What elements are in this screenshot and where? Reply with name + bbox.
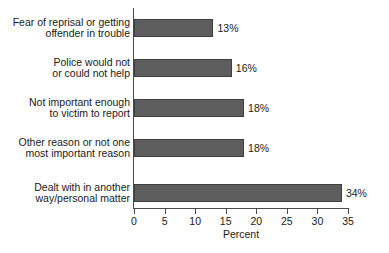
bar: [134, 99, 244, 117]
x-axis-title: Percent: [133, 228, 349, 240]
category-label: Other reason or not one most important r…: [0, 137, 130, 160]
bar: [134, 59, 232, 77]
x-axis-tick: [195, 209, 196, 214]
bar-chart: Fear of reprisal or getting offender in …: [0, 0, 389, 253]
category-label-line: most important reason: [0, 148, 130, 160]
bar-value-label: 34%: [346, 184, 367, 202]
category-label: Fear of reprisal or getting offender in …: [0, 17, 130, 40]
x-axis-tick: [348, 209, 349, 214]
category-label: Dealt with in another way/personal matte…: [0, 182, 130, 205]
x-axis-tick: [317, 209, 318, 214]
bar: [134, 19, 213, 37]
bar-value-label: 16%: [236, 59, 257, 77]
category-label-line: to victim to report: [0, 108, 130, 120]
x-axis-tick: [165, 209, 166, 214]
bar-value-label: 13%: [217, 19, 238, 37]
cut-off-source-line: [0, 246, 389, 253]
bar: [134, 139, 244, 157]
category-label: Not important enough to victim to report: [0, 97, 130, 120]
x-axis-tick: [256, 209, 257, 214]
bar-value-label: 18%: [248, 139, 269, 157]
category-label-line: or could not help: [0, 68, 130, 80]
x-axis-tick: [134, 209, 135, 214]
x-axis-tick: [287, 209, 288, 214]
category-label: Police would not or could not help: [0, 57, 130, 80]
x-axis-tick: [226, 209, 227, 214]
bar-value-label: 18%: [248, 99, 269, 117]
x-axis-tick-label: 35: [328, 215, 368, 227]
category-label-line: offender in trouble: [0, 28, 130, 40]
bar: [134, 184, 342, 202]
category-label-line: way/personal matter: [0, 193, 130, 205]
y-axis-line: [133, 8, 134, 208]
